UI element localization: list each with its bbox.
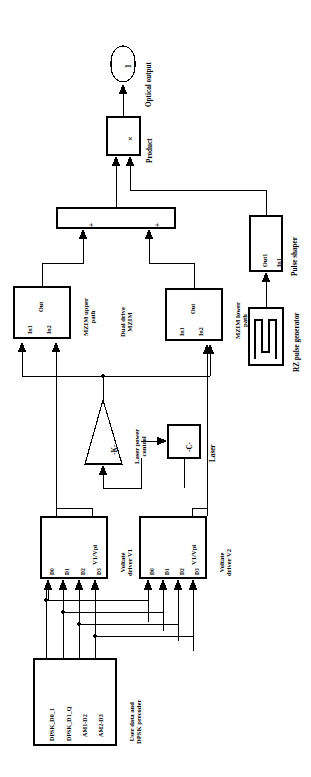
- mzim-upper-label-line1: MZIM upper: [82, 298, 89, 336]
- precoder-label: User data and DPSK precoder: [128, 700, 143, 744]
- mzim-upper-label-line2: path: [89, 298, 96, 336]
- sum-port-a-symbol: +: [89, 223, 96, 227]
- voltage-driver-v2-gain-label: V1/Vpi: [191, 545, 198, 565]
- mzim-lower-label-line1: MZIM lower: [234, 302, 241, 339]
- voltage-driver-v1-port-d3: D3: [97, 568, 103, 575]
- laser-power-control-line2: control: [140, 429, 147, 464]
- precoder-label-line2: DPSK precoder: [135, 700, 142, 744]
- rz-pulse-generator-label: RZ pulse generator: [294, 313, 301, 373]
- voltage-driver-v1-line1: Voltate: [119, 549, 126, 576]
- voltage-driver-v2-line2: driver V2: [225, 549, 232, 576]
- voltage-driver-v1-port-d2: D2: [81, 568, 87, 575]
- laser-shape: [168, 425, 200, 458]
- mzim-lower-label: MZIM lower path: [234, 302, 249, 339]
- dual-drive-mzim-label: Dual drive MZIM: [119, 307, 134, 337]
- laser-power-control-line1: Laser power: [133, 429, 140, 464]
- precoder-label-line1: User data and: [128, 700, 135, 744]
- rz-pulse-generator-shape: [249, 308, 283, 365]
- dual-drive-label-line2: MZIM: [126, 307, 133, 337]
- sum-port-b-symbol: +: [155, 223, 162, 227]
- voltage-driver-v2-port-d0: D0: [150, 568, 156, 575]
- precoder-port-am1-d2: AM1-D2: [82, 714, 88, 737]
- precoder-port-dpsk-d0-i: DPSK_D0_1: [49, 708, 55, 741]
- voltage-driver-v2-line1: Voltate: [218, 549, 225, 576]
- mzim-lower-shape: [166, 289, 222, 340]
- laser-label: Laser: [210, 444, 217, 462]
- mzim-upper-port-in2: In2: [46, 325, 52, 334]
- precoder-port-dpsk-d1-q: DPSK_D1_Q: [66, 706, 72, 741]
- product-operator-symbol: ×: [127, 136, 135, 141]
- mzim-upper-label: MZIM upper path: [82, 298, 97, 336]
- voltage-driver-v2-label: Voltate driver V2: [218, 549, 233, 576]
- voltage-driver-v2-port-d3: D3: [195, 568, 201, 575]
- pulse-shaper-port-out1: Out1: [262, 254, 268, 267]
- laser-power-control-label: Laser power control: [133, 429, 148, 464]
- voltage-driver-v1-port-d1: D1: [65, 568, 71, 575]
- pulse-shaper-label: Pulse shaper: [292, 237, 299, 276]
- mzim-lower-port-in2: In2: [198, 327, 204, 336]
- voltage-driver-v1-line2: driver V1: [126, 549, 133, 576]
- pulse-shaper-port-in1: In1: [276, 258, 282, 267]
- gain-value-label: -K-: [112, 445, 119, 455]
- mzim-upper-port-out: Out: [38, 302, 44, 312]
- optical-output-inner-value: 1: [126, 64, 133, 68]
- block-diagram-svg: [0, 0, 311, 777]
- product-label: Product: [147, 138, 154, 163]
- precoder-port-am2-d3: AM2-D3: [98, 714, 104, 737]
- voltage-driver-v1-gain-label: V1/Vpi: [92, 545, 99, 565]
- mzim-upper-shape: [14, 287, 70, 338]
- mzim-upper-port-in1: In1: [27, 325, 33, 334]
- laser-constant-value: -C-: [187, 442, 194, 452]
- mzim-lower-port-in1: In1: [179, 327, 185, 336]
- voltage-driver-v1-port-d0: D0: [50, 568, 56, 575]
- diagram-canvas: Optical output 1 Product × + + Pulse sha…: [0, 0, 311, 777]
- mzim-lower-port-out: Out: [190, 304, 196, 314]
- voltage-driver-v2-port-d1: D1: [165, 568, 171, 575]
- voltage-driver-v2-port-d2: D2: [180, 568, 186, 575]
- optical-output-label: Optical output: [146, 62, 153, 107]
- dual-drive-label-line1: Dual drive: [119, 307, 126, 337]
- voltage-driver-v1-label: Voltate driver V1: [119, 549, 134, 576]
- mzim-lower-label-line2: path: [241, 302, 248, 339]
